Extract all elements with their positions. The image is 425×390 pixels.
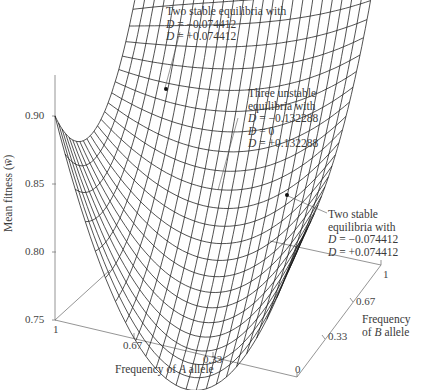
back-edge-left: [55, 270, 110, 320]
z-axis-label: Mean fitness (w̄): [2, 155, 14, 232]
equilibrium-dot-right: [285, 193, 289, 197]
a-tick-067: 0.67: [123, 339, 142, 351]
b-tick-033: 0.33: [328, 330, 347, 342]
mesh-line: [226, 0, 310, 377]
mesh-line: [76, 141, 318, 307]
b-tick-1: 1: [383, 268, 389, 280]
annotation-right: Two stable equilibria with D = −0.074412…: [328, 208, 398, 258]
a-axis-label: Frequency of A allele: [115, 363, 214, 376]
annotation-top: Two stable equilibria with D = −0.074412…: [166, 5, 286, 43]
mesh-line: [196, 0, 280, 390]
a-tick-1: 1: [53, 323, 59, 335]
mesh-line: [237, 0, 321, 367]
mesh-line: [136, 0, 221, 341]
mesh-line: [247, 0, 331, 354]
z-tick-075: 0.75: [25, 313, 44, 325]
mesh-line: [119, 55, 360, 90]
mesh-line: [80, 142, 322, 293]
mesh-line: [115, 71, 356, 111]
z-tick-085: 0.85: [25, 177, 44, 189]
mesh-line: [156, 0, 241, 369]
z-tick-090: 0.90: [25, 109, 44, 121]
annotation-middle: Three unstable equilibria with D = −0.13…: [248, 87, 318, 150]
b-axis-label: Frequency of B allele: [362, 313, 411, 338]
equilibrium-dot-top: [164, 87, 168, 91]
mesh-line: [66, 134, 308, 351]
mesh-line: [267, 0, 351, 319]
z-tick-080: 0.80: [25, 245, 44, 257]
mesh-line: [166, 0, 251, 378]
mesh-line: [206, 0, 290, 389]
a-tick-0: 0: [295, 363, 301, 375]
b-tick-067: 0.67: [356, 295, 375, 307]
